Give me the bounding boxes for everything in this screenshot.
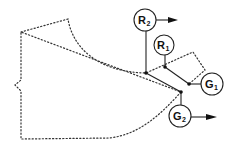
node-r2-label: R [138,14,146,26]
joint-dot [179,90,183,94]
joint-dot [163,65,167,69]
g2-arrow-icon [191,114,217,120]
node-g2-subscript: 2 [182,116,186,123]
node-g1-subscript: 1 [214,84,218,91]
link-r2-g2 [146,73,181,92]
node-r2-subscript: 2 [146,20,150,27]
receptor-ligand-diagram: R2 R1 G1 G2 [0,0,235,147]
node-r1-label: R [157,39,165,51]
node-g1-label: G [205,78,214,90]
node-r2: R2 [134,9,156,31]
node-r1-subscript: 1 [165,45,169,52]
link-r1-g1 [165,67,189,84]
node-g2-label: G [173,110,182,122]
joint-dot [144,71,148,75]
joint-dot [187,82,191,86]
r2-arrow-icon [156,17,178,23]
node-g2: G2 [169,105,191,127]
node-r1: R1 [154,35,174,55]
node-g1: G1 [201,73,223,95]
